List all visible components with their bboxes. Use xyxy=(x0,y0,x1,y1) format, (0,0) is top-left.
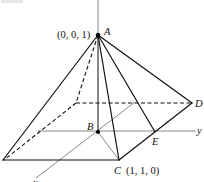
point-e-label: E xyxy=(151,136,159,147)
y-axis-label: y xyxy=(196,125,202,136)
point-c-coords: (1, 1, 0) xyxy=(126,165,160,177)
b-to-c-segment xyxy=(98,132,119,160)
hidden-edge-apex-back xyxy=(76,35,98,103)
point-b xyxy=(96,130,100,134)
point-b-label: B xyxy=(87,121,94,132)
x-axis-label: x xyxy=(32,177,38,182)
point-a xyxy=(96,33,101,38)
point-a-coords: (0, 0, 1) xyxy=(57,29,91,41)
point-a-label: A xyxy=(103,26,111,37)
edge-a-d xyxy=(98,35,192,103)
base-edge-right xyxy=(119,103,192,160)
pyramid-diagram: (0, 0, 1) A B D E C (1, 1, 0) y x xyxy=(0,0,204,182)
point-d-label: D xyxy=(194,98,203,109)
point-c-label: C xyxy=(114,165,122,176)
cropped-text-fragment xyxy=(1,0,23,3)
